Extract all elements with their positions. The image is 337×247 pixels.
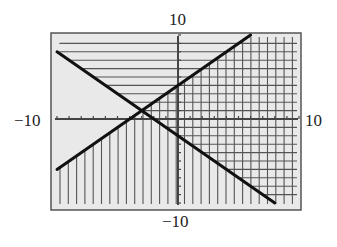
- graph-window: [0, 0, 337, 247]
- y-max-label: 10: [169, 11, 186, 28]
- y-min-label: −10: [162, 213, 189, 230]
- x-min-label: −10: [14, 112, 41, 129]
- x-max-label: 10: [305, 112, 322, 129]
